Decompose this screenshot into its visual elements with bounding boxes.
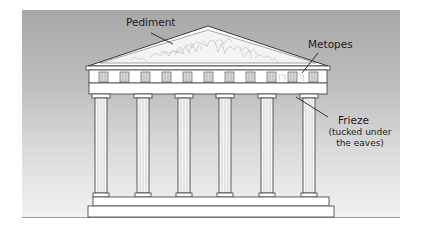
column-1 xyxy=(92,94,110,197)
column-5 xyxy=(258,94,276,197)
column-2 xyxy=(134,94,152,197)
metope-band xyxy=(89,70,327,83)
architrave-frieze xyxy=(89,83,327,94)
column-3 xyxy=(175,94,193,197)
metopes-label: Metopes xyxy=(308,38,353,50)
pediment-label: Pediment xyxy=(126,16,175,28)
frieze-note-line-2: the eaves) xyxy=(320,138,400,149)
frieze-note: (tucked under the eaves) xyxy=(320,127,400,149)
frieze-label: Frieze xyxy=(338,114,369,126)
cornice xyxy=(86,66,330,70)
frieze-note-line-1: (tucked under xyxy=(320,127,400,138)
pediment xyxy=(88,26,328,66)
stylobate-steps xyxy=(88,197,334,217)
column-4 xyxy=(216,94,234,197)
columns xyxy=(92,94,318,197)
